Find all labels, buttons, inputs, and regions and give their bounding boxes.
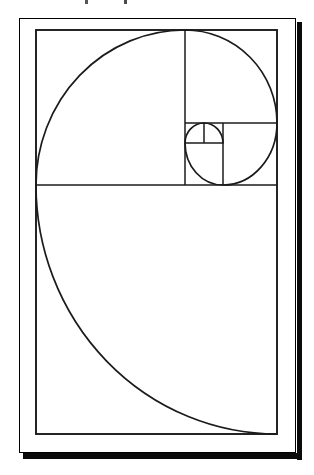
golden-spiral-curve (36, 30, 277, 434)
clipped-text-fragment-1 (85, 0, 88, 4)
clipped-text-fragment-2 (124, 0, 127, 4)
golden-spiral-figure (0, 0, 314, 475)
golden-rectangle-outline (36, 30, 277, 434)
figure-canvas (0, 0, 314, 475)
